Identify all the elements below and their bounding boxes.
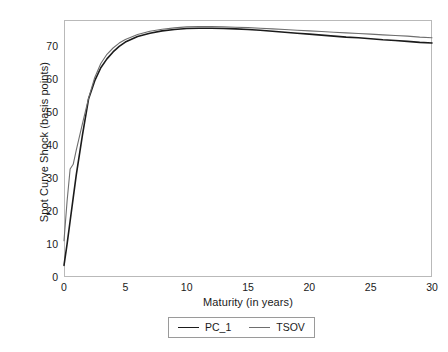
y-tick-label: 50 — [28, 107, 58, 117]
y-tick-label: 30 — [28, 173, 58, 183]
x-tick-label: 15 — [228, 282, 268, 292]
x-axis-title: Maturity (in years) — [64, 296, 432, 308]
legend-line-swatch-icon — [249, 327, 270, 328]
legend-item-tsov[interactable]: TSOV — [249, 322, 305, 333]
legend-item-label: TSOV — [276, 322, 305, 333]
y-tick-label: 10 — [28, 239, 58, 249]
y-tick-label: 70 — [28, 41, 58, 51]
chart-legend: PC_1TSOV — [168, 317, 315, 338]
series-line-pc_1 — [64, 28, 432, 265]
legend-line-swatch-icon — [178, 327, 199, 328]
x-tick-label: 30 — [412, 282, 448, 292]
legend-item-label: PC_1 — [205, 322, 231, 333]
y-tick-label: 20 — [28, 206, 58, 216]
plot-lines — [64, 20, 432, 277]
y-tick-label: 40 — [28, 140, 58, 150]
x-tick-label: 10 — [167, 282, 207, 292]
legend-item-pc_1[interactable]: PC_1 — [178, 322, 231, 333]
series-line-tsov — [64, 27, 432, 241]
y-tick-label: 0 — [28, 272, 58, 282]
y-tick-label: 60 — [28, 74, 58, 84]
x-tick-label: 20 — [289, 282, 329, 292]
x-tick-label: 5 — [105, 282, 145, 292]
y-axis-tick-labels: 010203040506070 — [22, 0, 58, 352]
chart-figure: Spot Curve Shock (basis points) 01020304… — [0, 0, 448, 352]
x-tick-label: 25 — [351, 282, 391, 292]
x-tick-label: 0 — [44, 282, 84, 292]
